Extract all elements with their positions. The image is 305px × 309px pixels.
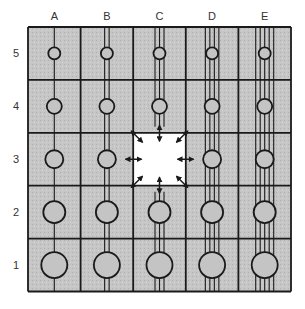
- cell-circle-D1: [199, 252, 225, 278]
- row-label: 2: [13, 206, 19, 218]
- column-labels: ABCDE: [51, 10, 269, 22]
- cell-circle-A1: [41, 252, 67, 278]
- cell-circle-D3: [203, 150, 221, 168]
- column-label: D: [208, 10, 216, 22]
- cell-circle-A3: [45, 150, 63, 168]
- cell-circle-E4: [257, 99, 272, 114]
- cell-circle-B2: [96, 201, 118, 223]
- column-label: B: [103, 10, 110, 22]
- column-label: A: [51, 10, 59, 22]
- cell-circle-E2: [254, 201, 276, 223]
- cell-circle-E3: [256, 150, 274, 168]
- cell-circle-E1: [252, 252, 278, 278]
- cell-circle-A2: [43, 201, 65, 223]
- cell-circle-C1: [147, 252, 173, 278]
- cell-circle-A5: [48, 47, 60, 59]
- cell-circle-D4: [205, 99, 220, 114]
- cell-circle-B5: [101, 47, 113, 59]
- cell-circle-C2: [149, 201, 171, 223]
- row-label: 1: [13, 259, 19, 271]
- cell-circle-E5: [259, 47, 271, 59]
- column-label: E: [261, 10, 268, 22]
- cell-circle-D5: [206, 47, 218, 59]
- cell-circle-C5: [154, 47, 166, 59]
- cell-circle-B3: [98, 150, 116, 168]
- cell-circle-A4: [47, 99, 62, 114]
- cell-circle-B1: [94, 252, 120, 278]
- row-label: 5: [13, 47, 19, 59]
- row-label: 3: [13, 153, 19, 165]
- cell-circle-B4: [99, 99, 114, 114]
- cell-circle-C4: [152, 99, 167, 114]
- row-label: 4: [13, 100, 19, 112]
- row-labels: 54321: [13, 47, 19, 271]
- cell-circle-D2: [201, 201, 223, 223]
- grid-diagram: ABCDE 54321: [0, 0, 305, 309]
- column-label: C: [156, 10, 164, 22]
